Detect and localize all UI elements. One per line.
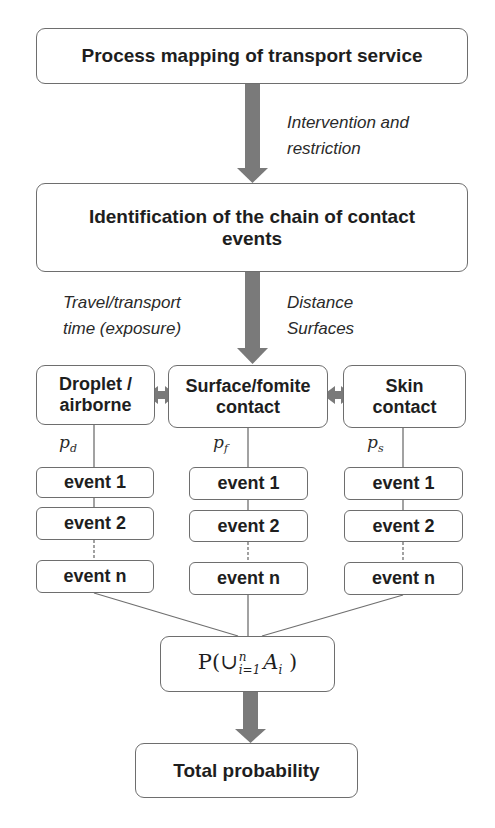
total-probability-box: Total probability <box>135 743 358 798</box>
travel-time-label: Travel/transport time (exposure) <box>63 290 181 341</box>
union-probability-box: P(∪ni=1Ai ) <box>160 636 335 692</box>
prob-skin-label: ps <box>367 432 384 455</box>
union-probability-formula: P(∪ni=1Ai ) <box>198 650 297 678</box>
process-mapping-box: Process mapping of transport service <box>36 28 468 84</box>
distance-surfaces-label: Distance Surfaces <box>287 290 354 341</box>
process-mapping-label: Process mapping of transport service <box>81 45 422 67</box>
skin-event-1: event 1 <box>344 467 463 500</box>
droplet-event-2: event 2 <box>36 507 154 540</box>
skin-event-n: event n <box>344 562 463 595</box>
arrow-head-3 <box>235 729 266 743</box>
surface-fomite-box: Surface/fomite contact <box>168 365 328 428</box>
fomite-event-n: event n <box>189 562 308 595</box>
arrow-shaft-2 <box>245 272 260 348</box>
fomite-event-1: event 1 <box>189 467 308 500</box>
intervention-label: Intervention and restriction <box>287 110 409 161</box>
skin-contact-box: Skin contact <box>343 365 466 428</box>
droplet-event-n: event n <box>36 560 154 593</box>
arrow-head-2 <box>237 348 268 364</box>
prob-droplet-label: pd <box>59 432 77 455</box>
arrow-shaft-1 <box>245 84 260 168</box>
arrow-shaft-3 <box>243 692 258 729</box>
droplet-event-1: event 1 <box>36 467 154 498</box>
chain-identification-box: Identification of the chain of contact e… <box>36 183 468 272</box>
prob-fomite-label: pf <box>213 432 228 455</box>
skin-event-2: event 2 <box>344 510 463 542</box>
droplet-airborne-box: Droplet / airborne <box>36 365 155 425</box>
fomite-event-2: event 2 <box>189 510 308 542</box>
arrow-head-1 <box>237 168 268 183</box>
